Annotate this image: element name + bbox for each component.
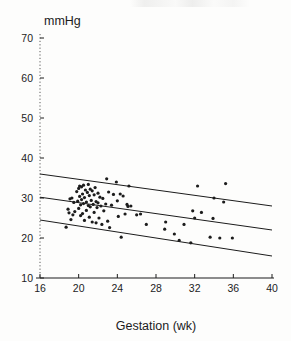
data-point (126, 205, 129, 208)
data-point (88, 194, 91, 197)
data-point (101, 197, 104, 200)
data-point (75, 190, 78, 193)
data-point (209, 236, 212, 239)
x-axis-title: Gestation (wk) (116, 319, 197, 333)
data-point (91, 220, 94, 223)
data-point (116, 199, 119, 202)
x-tick-label: 32 (189, 282, 201, 294)
data-point (76, 200, 79, 203)
data-point (211, 217, 214, 220)
data-point (139, 212, 142, 215)
data-point (117, 215, 120, 218)
data-point (102, 209, 105, 212)
data-point (93, 211, 96, 214)
reference-lines (40, 174, 272, 256)
data-point (224, 182, 227, 185)
y-tick-label: 70 (21, 32, 33, 44)
y-axis-unit-label: mmHg (44, 14, 81, 28)
data-point (123, 212, 126, 215)
data-point (231, 236, 234, 239)
data-point (182, 223, 185, 226)
data-point (77, 207, 80, 210)
data-points (65, 177, 234, 244)
data-point (145, 223, 148, 226)
data-point (164, 220, 167, 223)
data-point (189, 241, 192, 244)
data-point (127, 184, 130, 187)
data-point (91, 189, 94, 192)
data-point (105, 177, 108, 180)
x-axis (36, 274, 274, 278)
data-point (96, 192, 99, 195)
data-point (92, 203, 95, 206)
data-point (87, 183, 90, 186)
data-point (83, 219, 86, 222)
data-point (193, 216, 196, 219)
data-point (65, 226, 68, 229)
data-point (66, 208, 69, 211)
data-point (191, 209, 194, 212)
x-tick-label: 20 (73, 282, 85, 294)
data-point (93, 193, 96, 196)
data-point (70, 196, 73, 199)
data-point (80, 198, 83, 201)
data-point (129, 204, 132, 207)
data-point (90, 199, 93, 202)
data-point (222, 200, 225, 203)
x-tick-label: 24 (111, 282, 123, 294)
y-tick-labels: 10203040506070 (21, 32, 33, 284)
data-point (106, 220, 109, 223)
data-point (173, 232, 176, 235)
data-point (98, 196, 101, 199)
data-point (212, 196, 215, 199)
data-point (99, 204, 102, 207)
y-tick-label: 40 (21, 152, 33, 164)
data-point (67, 211, 70, 214)
data-point (89, 205, 92, 208)
data-point (218, 236, 221, 239)
data-point (100, 223, 103, 226)
data-point (94, 221, 97, 224)
data-point (196, 184, 199, 187)
x-tick-label: 16 (34, 282, 46, 294)
data-point (95, 206, 98, 209)
data-point (115, 180, 118, 183)
data-point (82, 184, 85, 187)
data-point (96, 201, 99, 204)
data-point (81, 192, 84, 195)
y-tick-label: 50 (21, 112, 33, 124)
data-point (122, 194, 125, 197)
y-tick-label: 10 (21, 272, 33, 284)
data-point (73, 210, 76, 213)
data-point (94, 186, 97, 189)
data-point (78, 195, 81, 198)
data-point (85, 209, 88, 212)
y-axis (40, 34, 44, 278)
data-point (112, 193, 115, 196)
data-point (104, 202, 107, 205)
data-point (163, 228, 166, 231)
figure-container: 10203040506070 16202428323640 mmHg Gesta… (0, 0, 291, 341)
data-point (107, 190, 110, 193)
y-tick-label: 20 (21, 232, 33, 244)
data-point (110, 204, 113, 207)
data-point (108, 226, 111, 229)
data-point (120, 236, 123, 239)
data-point (79, 203, 82, 206)
data-point (71, 213, 74, 216)
scatter-plot: 10203040506070 16202428323640 mmHg Gesta… (0, 0, 291, 341)
data-point (81, 212, 84, 215)
data-point (85, 200, 88, 203)
data-point (88, 216, 91, 219)
data-point (119, 192, 122, 195)
data-point (135, 213, 138, 216)
data-point (69, 218, 72, 221)
data-point (72, 201, 75, 204)
y-tick-label: 30 (21, 192, 33, 204)
data-point (86, 191, 89, 194)
data-point (82, 202, 85, 205)
x-tick-label: 40 (266, 282, 278, 294)
data-point (83, 196, 86, 199)
data-point (97, 216, 100, 219)
x-tick-labels: 16202428323640 (34, 282, 278, 294)
